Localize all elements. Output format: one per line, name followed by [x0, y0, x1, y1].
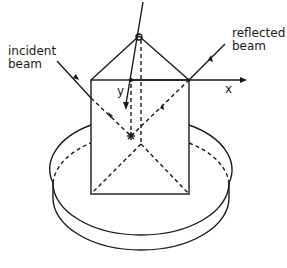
x-axis-label: x [225, 82, 232, 96]
y-axis-arrowhead [123, 102, 129, 110]
reflected-label-line2: beam [232, 40, 285, 53]
y-axis-label: y [117, 84, 124, 98]
reflected-beam-label: reflected beam [232, 27, 285, 53]
incident-beam [57, 61, 91, 98]
rotating-stage [50, 125, 232, 250]
crystal-front-face [91, 80, 189, 194]
crystal-roof [91, 36, 189, 80]
incident-beam-label: incident beam [8, 45, 56, 71]
incident-label-line2: beam [8, 58, 56, 71]
rotation-axis [126, 2, 143, 104]
focal-point-star-icon [127, 132, 135, 140]
hidden-edges [91, 40, 189, 194]
reflected-beam [189, 44, 225, 80]
